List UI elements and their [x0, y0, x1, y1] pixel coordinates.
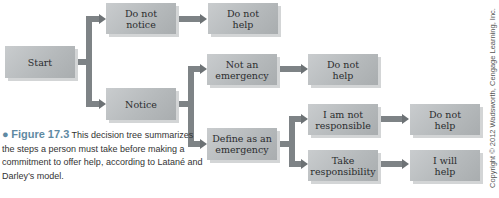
connector — [86, 19, 92, 107]
connector — [381, 116, 403, 122]
figure-bullet: ● — [2, 128, 9, 140]
node-not-an-emergency: Not an emergency — [207, 54, 277, 85]
arrow-icon — [200, 64, 207, 74]
arrow-icon — [99, 14, 106, 24]
node-i-will-help: I will help — [410, 150, 480, 181]
node-take-responsibility: Take responsibility — [308, 150, 378, 181]
arrow-icon — [402, 114, 409, 124]
connector — [280, 66, 302, 72]
copyright-notice: Copyright © 2012 Wadsworth, Cengage Lear… — [488, 8, 497, 188]
node-i-am-not-responsible: I am not responsible — [308, 104, 378, 135]
arrow-icon — [99, 99, 106, 109]
arrow-icon — [200, 14, 207, 24]
connector — [381, 161, 403, 167]
arrow-icon — [301, 64, 308, 74]
node-do-not-help-2: Do not help — [308, 54, 378, 85]
arrow-icon — [301, 159, 308, 169]
arrow-icon — [402, 159, 409, 169]
node-do-not-notice: Do not notice — [106, 3, 176, 34]
node-notice: Notice — [106, 88, 176, 120]
node-start: Start — [5, 46, 75, 78]
node-do-not-help-3: Do not help — [410, 104, 480, 135]
connector — [86, 101, 100, 107]
figure-caption: ● Figure 17.3 This decision tree summari… — [2, 128, 207, 183]
node-do-not-help-1: Do not help — [208, 3, 278, 34]
connector — [179, 16, 201, 22]
arrow-icon — [301, 114, 308, 124]
connector — [289, 119, 295, 165]
node-define-as-emergency: Define as an emergency — [207, 128, 277, 160]
connector — [86, 16, 100, 22]
figure-label: Figure 17.3 — [11, 128, 69, 140]
